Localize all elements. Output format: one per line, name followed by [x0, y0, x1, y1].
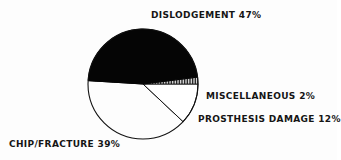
pie-slice-dislodgement[interactable] [88, 29, 197, 84]
pie-slice-prosthesis-damage[interactable] [143, 84, 198, 122]
pie-label-chip-fracture: CHIP/FRACTURE 39% [9, 139, 120, 150]
pie-label-prosthesis-damage: PROSTHESIS DAMAGE 12% [198, 114, 341, 125]
pie-label-dislodgement: DISLODGEMENT 47% [151, 10, 261, 21]
pie-label-miscellaneous: MISCELLANEOUS 2% [206, 91, 315, 102]
